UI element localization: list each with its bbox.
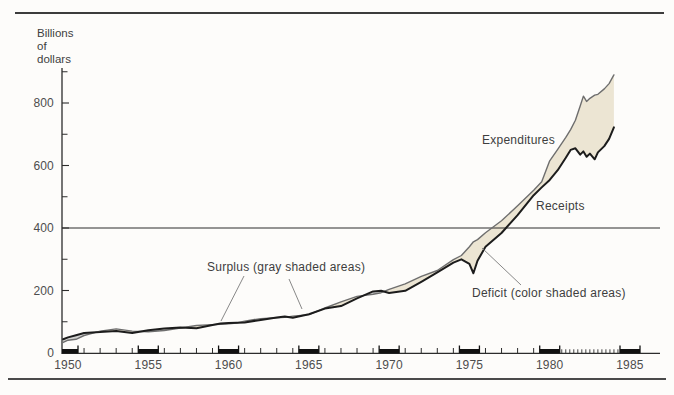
x-tick-label-1950: 1950: [54, 358, 82, 372]
x-bold-year-marker: [219, 349, 239, 353]
x-bold-year-marker: [299, 349, 319, 353]
y-tick-label-400: 400: [33, 221, 54, 235]
x-tick-label-1985: 1985: [616, 358, 644, 372]
x-bold-year-marker: [540, 349, 560, 353]
receipts-line: [63, 127, 614, 339]
x-bold-year-marker: [62, 349, 78, 353]
x-tick-label-1970: 1970: [375, 358, 403, 372]
x-bold-year-marker: [620, 349, 640, 353]
bottom-rule: [8, 378, 666, 380]
x-tick-label-1955: 1955: [135, 358, 163, 372]
deficit-annotation: Deficit (color shaded areas): [472, 286, 626, 300]
x-tick-label-1960: 1960: [215, 358, 243, 372]
expenditures-line: [63, 75, 614, 343]
chart-canvas: 0200400600800195019551960196519701975198…: [0, 0, 674, 395]
annotation-leader-line: [482, 248, 521, 285]
x-bold-year-marker: [379, 349, 399, 353]
expenditures-series-label: Expenditures: [482, 133, 555, 147]
y-tick-label-0: 0: [47, 346, 54, 360]
y-axis-title-line: of: [37, 40, 73, 53]
y-tick-label-800: 800: [33, 96, 54, 110]
y-axis-title-line: Billions: [37, 27, 73, 40]
chart-figure: 0200400600800195019551960196519701975198…: [0, 0, 674, 395]
x-bold-year-marker: [459, 349, 479, 353]
y-axis-title: Billions of dollars: [37, 27, 73, 66]
x-tick-label-1975: 1975: [456, 358, 484, 372]
surplus-annotation: Surplus (gray shaded areas): [207, 260, 365, 274]
receipts-series-label: Receipts: [536, 199, 585, 213]
annotation-leader-line: [221, 276, 244, 321]
x-tick-label-1965: 1965: [295, 358, 323, 372]
annotation-leader-line: [289, 279, 302, 309]
y-tick-label-200: 200: [33, 284, 54, 298]
y-axis-title-line: dollars: [37, 53, 73, 66]
y-tick-label-600: 600: [33, 159, 54, 173]
x-bold-year-marker: [138, 349, 158, 353]
x-tick-label-1980: 1980: [536, 358, 564, 372]
